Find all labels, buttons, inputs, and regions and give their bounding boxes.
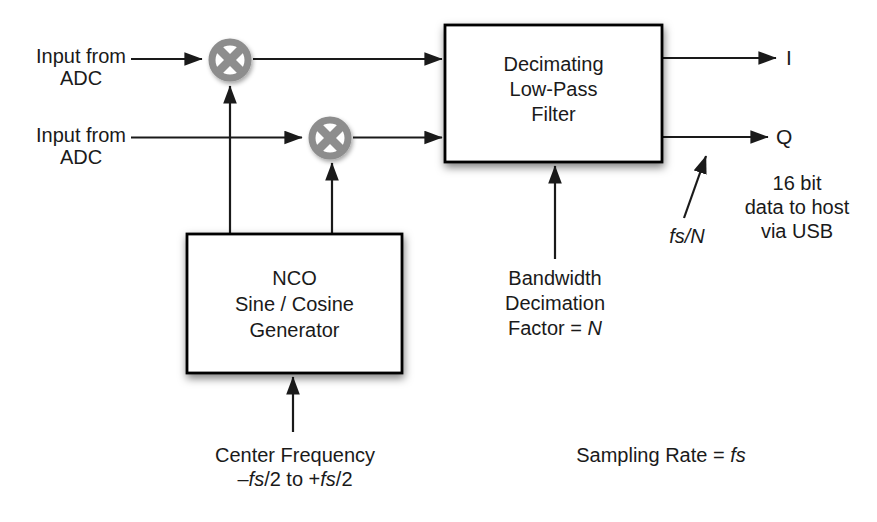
input-bottom-line1: Input from	[36, 124, 126, 146]
usb-note-line3: via USB	[745, 219, 850, 243]
mixer-q-icon	[312, 120, 348, 156]
center-frequency-note: Center Frequency –fs/2 to +fs/2	[215, 443, 375, 491]
filter-line1: Decimating	[503, 52, 603, 77]
cf-fs1: fs	[249, 468, 265, 490]
bandwidth-note-line3: Factor = N	[505, 316, 605, 341]
cf-end: /2	[336, 468, 353, 490]
center-frequency-line1: Center Frequency	[215, 443, 375, 467]
sampling-rate-note: Sampling Rate = fs	[576, 443, 746, 467]
usb-note-line2: data to host	[745, 195, 850, 219]
filter-line2: Low-Pass	[510, 77, 598, 102]
nco-line1: NCO	[272, 265, 316, 291]
sampling-rate-var: fs	[730, 444, 746, 466]
filter-block-label: Decimating Low-Pass Filter	[445, 25, 662, 162]
center-frequency-line2: –fs/2 to +fs/2	[215, 467, 375, 491]
input-bottom-label: Input from ADC	[36, 124, 126, 168]
cf-dash: –	[237, 468, 248, 490]
i-output-label: I	[786, 46, 792, 70]
bandwidth-note: Bandwidth Decimation Factor = N	[505, 266, 605, 341]
bandwidth-factor-var: N	[588, 317, 602, 339]
nco-block-label: NCO Sine / Cosine Generator	[187, 234, 402, 373]
input-top-line1: Input from	[36, 45, 126, 67]
nco-line3: Generator	[249, 317, 339, 343]
arrow-fs-over-n-to-output	[684, 156, 706, 218]
filter-line3: Filter	[531, 102, 575, 127]
sampling-rate-text: Sampling Rate =	[576, 444, 730, 466]
usb-note-line1: 16 bit	[745, 171, 850, 195]
mixer-i-icon	[212, 42, 248, 78]
ddc-block-diagram: Input from ADC Input from ADC Decimating…	[0, 0, 877, 522]
cf-mid: /2 to +	[264, 468, 320, 490]
bandwidth-note-line1: Bandwidth	[505, 266, 605, 291]
nco-line2: Sine / Cosine	[235, 291, 354, 317]
bandwidth-factor-text: Factor =	[508, 317, 587, 339]
bandwidth-note-line2: Decimation	[505, 291, 605, 316]
input-top-line2: ADC	[36, 67, 126, 89]
fs-over-n-label: fs/N	[669, 224, 705, 248]
input-top-label: Input from ADC	[36, 45, 126, 89]
usb-note: 16 bit data to host via USB	[745, 171, 850, 243]
q-output-label: Q	[776, 125, 792, 149]
input-bottom-line2: ADC	[36, 146, 126, 168]
cf-fs2: fs	[320, 468, 336, 490]
